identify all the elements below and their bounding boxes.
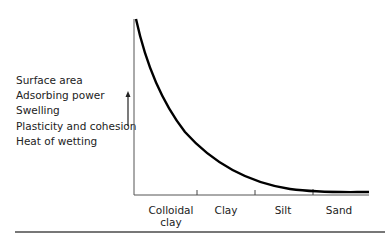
bottom-rule <box>15 231 385 233</box>
x-label-line1: Sand <box>309 204 369 216</box>
x-label-colloidal-clay: Colloidal clay <box>141 204 201 228</box>
x-label-sand: Sand <box>309 204 369 216</box>
x-label-line1: Silt <box>253 204 313 216</box>
x-label-line1: Clay <box>196 204 256 216</box>
x-label-line2: clay <box>141 216 201 228</box>
decay-curve <box>136 19 369 192</box>
x-label-silt: Silt <box>253 204 313 216</box>
up-arrow-icon <box>126 91 131 126</box>
x-label-clay: Clay <box>196 204 256 216</box>
x-label-line1: Colloidal <box>141 204 201 216</box>
